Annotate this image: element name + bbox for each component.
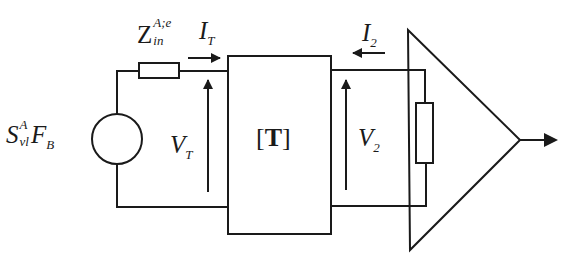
wire-left-top [117, 71, 139, 114]
current-in-subscript: T [207, 33, 214, 48]
wire-left-bottom [117, 164, 228, 207]
voltage-out-subscript: 2 [373, 140, 380, 155]
source-factor: F [31, 121, 46, 148]
source-label: SAvlFB [6, 122, 54, 148]
amplifier-triangle-icon [408, 30, 520, 250]
voltage-source-icon [92, 114, 142, 164]
impedance-subscript: in [153, 34, 171, 47]
circuit-drawing [0, 0, 583, 265]
input-impedance-resistor [139, 63, 179, 78]
output-arrowhead-icon [544, 133, 558, 147]
source-symbol: S [6, 121, 19, 148]
impedance-symbol: Z [137, 21, 152, 48]
voltage-in-symbol: V [170, 131, 185, 158]
bracket-close: ] [282, 123, 291, 152]
current-in-label: IT [199, 18, 215, 43]
source-subscript: vl [20, 135, 29, 148]
voltage-out-symbol: V [358, 124, 373, 151]
voltage-in-subscript: T [185, 147, 192, 162]
two-port-symbol: T [265, 123, 282, 152]
bracket-open: [ [256, 123, 265, 152]
circuit-diagram: SAvlFB ZA;ein IT VT [T] I2 V2 [0, 0, 583, 265]
input-impedance-label: ZA;ein [137, 22, 171, 48]
impedance-superscript: A;e [153, 16, 171, 29]
two-port-label: [T] [256, 125, 291, 151]
voltage-in-label: VT [170, 132, 193, 157]
load-resistor [416, 103, 433, 163]
current-out-subscript: 2 [370, 35, 377, 50]
voltage-out-label: V2 [358, 125, 380, 150]
current-out-label: I2 [362, 20, 377, 45]
source-factor-subscript: B [46, 137, 54, 152]
source-superscript: A [20, 118, 29, 131]
